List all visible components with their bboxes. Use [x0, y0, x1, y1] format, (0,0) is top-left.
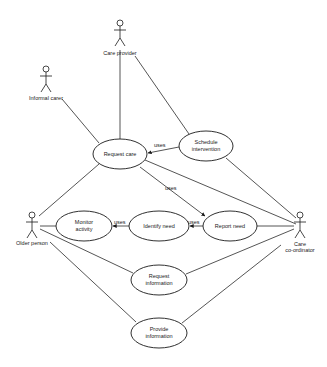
- use-case-diagram: uses uses uses uses Request care Schedul…: [0, 0, 327, 367]
- actor-label: Older person: [16, 240, 48, 246]
- use-case-request-care[interactable]: Request care: [93, 139, 147, 169]
- use-case-label: Identify need: [143, 223, 175, 229]
- stick-figure-icon: [114, 20, 126, 46]
- use-case-request-information[interactable]: Request information: [131, 265, 187, 295]
- edge-provide-info-coordinator: [182, 245, 281, 323]
- uses-label-3: uses: [114, 219, 126, 225]
- actor-care-provider[interactable]: Care provider: [103, 20, 136, 56]
- use-case-schedule-intervention[interactable]: Schedule intervention: [179, 131, 233, 161]
- use-case-label: information: [145, 333, 172, 339]
- actor-label: co-ordinator: [285, 247, 315, 253]
- use-case-label: activity: [76, 226, 93, 232]
- actor-label: Informal carer: [29, 95, 63, 101]
- use-case-label: intervention: [192, 146, 220, 152]
- actor-care-coordinator[interactable]: Care co-ordinator: [285, 212, 315, 253]
- edge-informal-carer-request-care: [62, 99, 99, 143]
- use-case-report-need[interactable]: Report need: [203, 211, 257, 241]
- use-case-label: Monitor: [75, 219, 94, 225]
- use-case-label: Provide: [150, 326, 169, 332]
- uses-label-1: uses: [154, 142, 166, 148]
- uses-request-care-to-report-need: [140, 167, 205, 216]
- edge-older-person-request-care: [39, 164, 99, 216]
- use-case-label: information: [145, 280, 172, 286]
- stick-figure-icon: [40, 66, 52, 92]
- uses-label-4: uses: [188, 219, 200, 225]
- uses-label-2: uses: [165, 185, 177, 191]
- use-case-label: Request: [149, 273, 170, 279]
- use-case-provide-information[interactable]: Provide information: [131, 318, 187, 348]
- actor-older-person[interactable]: Older person: [16, 212, 48, 246]
- use-case-label: Report need: [215, 223, 245, 229]
- use-case-identify-need[interactable]: Identify need: [129, 211, 189, 241]
- stick-figure-icon: [294, 212, 306, 238]
- actor-label: Care provider: [103, 50, 136, 56]
- edge-care-provider-schedule: [135, 56, 189, 134]
- use-case-monitor-activity[interactable]: Monitor activity: [56, 211, 112, 241]
- use-case-label: Request care: [104, 151, 137, 157]
- stick-figure-icon: [26, 212, 38, 238]
- use-case-label: Schedule: [195, 139, 218, 145]
- actor-informal-carer[interactable]: Informal carer: [29, 66, 63, 101]
